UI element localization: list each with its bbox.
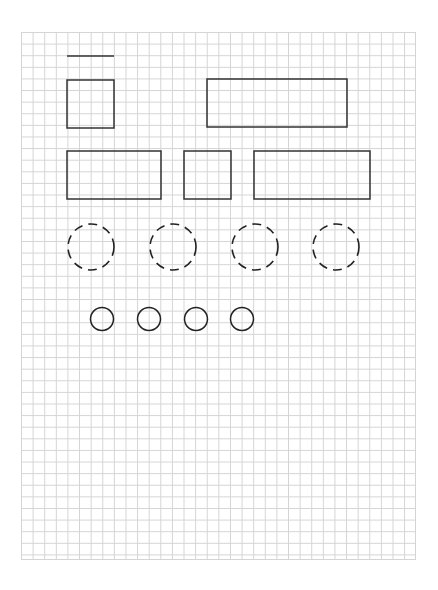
square-mid-center xyxy=(184,151,231,199)
small-circle-4 xyxy=(231,308,254,331)
shapes-layer xyxy=(0,0,438,590)
dashed-circle-1 xyxy=(68,224,114,270)
rect-mid-left xyxy=(67,151,161,199)
square-top-left xyxy=(67,80,114,128)
dashed-circle-2 xyxy=(150,224,196,270)
small-circle-3 xyxy=(185,308,208,331)
small-circle-2 xyxy=(138,308,161,331)
dashed-circle-4 xyxy=(313,224,359,270)
rect-mid-right xyxy=(254,151,370,199)
dashed-circle-3 xyxy=(232,224,278,270)
small-circle-1 xyxy=(91,308,114,331)
rect-top-right xyxy=(207,79,347,127)
